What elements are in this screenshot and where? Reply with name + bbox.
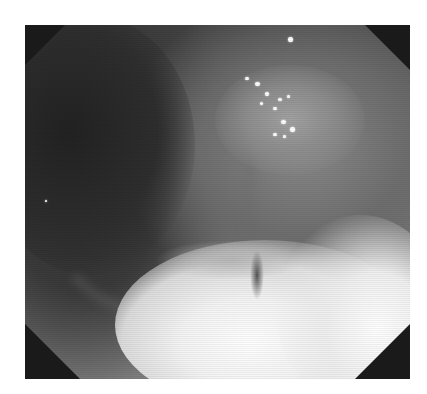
specular-highlight bbox=[278, 98, 282, 101]
specular-highlight bbox=[265, 92, 269, 96]
specular-highlight bbox=[255, 82, 260, 86]
specular-highlight bbox=[281, 120, 286, 124]
specular-highlight bbox=[288, 37, 293, 42]
frame-corner bbox=[365, 25, 410, 70]
lesion-ridge bbox=[155, 240, 305, 280]
specular-highlight bbox=[273, 107, 277, 110]
specular-highlight bbox=[287, 95, 290, 98]
frame-corner bbox=[25, 324, 80, 379]
endoscopy-image bbox=[25, 25, 410, 379]
frame-corner bbox=[25, 25, 65, 65]
specular-highlight bbox=[273, 133, 277, 136]
specular-highlight bbox=[245, 77, 249, 80]
raised-mucosa bbox=[215, 65, 365, 175]
frame-corner bbox=[355, 324, 410, 379]
image-caption bbox=[100, 382, 330, 392]
specular-highlight bbox=[45, 200, 47, 202]
specular-highlight bbox=[290, 127, 295, 132]
specular-highlight bbox=[283, 135, 286, 138]
mucosa-scene bbox=[25, 25, 410, 379]
lesion-notch bbox=[250, 250, 264, 300]
specular-highlight bbox=[260, 102, 263, 105]
